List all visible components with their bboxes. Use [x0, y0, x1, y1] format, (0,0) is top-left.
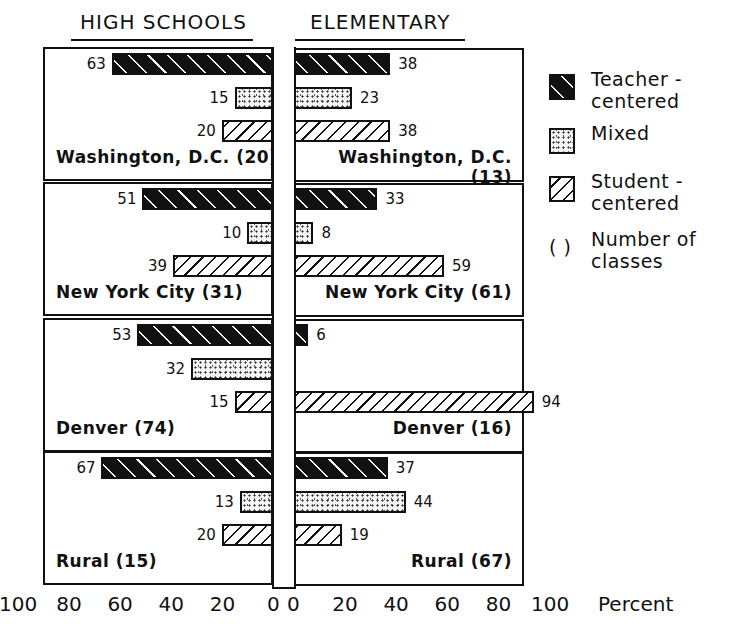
- value-label: 15: [205, 391, 229, 413]
- value-label: 44: [414, 491, 433, 513]
- tick-label: 0: [287, 592, 300, 616]
- tick-label: 0: [267, 592, 280, 616]
- tick-label: 40: [159, 592, 184, 616]
- value-label: 67: [71, 457, 95, 479]
- elem-location-label: Rural (67): [300, 551, 512, 571]
- tick-label: 80: [56, 592, 81, 616]
- value-label: 6: [316, 324, 326, 346]
- legend-symbol: ( ): [549, 236, 571, 258]
- elem-location-label: Washington, D.C. (13): [300, 147, 512, 187]
- bar-hs-teacher: [112, 53, 273, 75]
- bar-elem-student: [293, 255, 444, 277]
- bar-hs-student: [222, 120, 273, 142]
- tick-label: 20: [332, 592, 357, 616]
- value-label: 19: [350, 524, 369, 546]
- tick-label: 80: [486, 592, 511, 616]
- bar-hs-student: [173, 255, 273, 277]
- tick-label: 20: [210, 592, 235, 616]
- bar-elem-student: [293, 391, 534, 413]
- bar-elem-mixed: [293, 491, 406, 513]
- bar-elem-teacher: [293, 457, 388, 479]
- bar-hs-mixed: [191, 358, 273, 380]
- value-label: 8: [321, 222, 331, 244]
- high-schools-underline: [71, 39, 253, 41]
- bar-hs-teacher: [137, 324, 273, 346]
- value-label: 38: [398, 120, 417, 142]
- value-label: 23: [360, 87, 379, 109]
- bar-elem-teacher: [293, 188, 377, 210]
- value-label: 10: [217, 222, 241, 244]
- tick-label: 100: [531, 592, 569, 616]
- value-label: 59: [452, 255, 471, 277]
- bar-elem-mixed: [293, 222, 313, 244]
- value-label: 15: [205, 87, 229, 109]
- legend-label: Teacher -: [591, 68, 682, 90]
- elem-location-label: New York City (61): [300, 282, 512, 302]
- elem-location-label: Denver (16): [300, 418, 512, 438]
- bar-hs-teacher: [142, 188, 273, 210]
- value-label: 53: [107, 324, 131, 346]
- bar-elem-student: [293, 524, 342, 546]
- value-label: 20: [192, 120, 216, 142]
- value-label: 13: [210, 491, 234, 513]
- legend-label: Student -: [591, 170, 683, 192]
- tick-label: 100: [0, 592, 37, 616]
- legend-label: classes: [591, 250, 663, 272]
- bar-hs-mixed: [235, 87, 273, 109]
- value-label: 32: [161, 358, 185, 380]
- bar-hs-student: [235, 391, 273, 413]
- legend-label: Mixed: [591, 122, 650, 144]
- bar-elem-teacher: [293, 53, 390, 75]
- elementary-header: ELEMENTARY: [310, 10, 450, 34]
- bar-hs-mixed: [247, 222, 273, 244]
- hs-location-label: Rural (15): [56, 551, 157, 571]
- value-label: 63: [82, 53, 106, 75]
- tick-label: 60: [107, 592, 132, 616]
- value-label: 94: [542, 391, 561, 413]
- legend-swatch-mixed: [549, 128, 575, 154]
- legend-label: Number of: [591, 228, 696, 250]
- bar-hs-student: [222, 524, 273, 546]
- hs-location-label: Washington, D.C. (20): [56, 147, 277, 167]
- x-axis-title: Percent: [598, 592, 673, 616]
- value-label: 38: [398, 53, 417, 75]
- tick-label: 40: [383, 592, 408, 616]
- value-label: 20: [192, 524, 216, 546]
- bar-elem-mixed: [293, 87, 352, 109]
- legend-label: centered: [591, 90, 679, 112]
- hs-location-label: Denver (74): [56, 418, 175, 438]
- value-label: 37: [396, 457, 415, 479]
- hs-location-label: New York City (31): [56, 282, 243, 302]
- tick-label: 60: [435, 592, 460, 616]
- high-schools-header: HIGH SCHOOLS: [80, 10, 247, 34]
- value-label: 33: [385, 188, 404, 210]
- value-label: 39: [143, 255, 167, 277]
- elementary-underline: [295, 39, 465, 41]
- legend-label: centered: [591, 192, 679, 214]
- center-divider: [272, 47, 296, 589]
- legend-swatch-teacher: [549, 74, 575, 100]
- bar-hs-teacher: [101, 457, 273, 479]
- value-label: 51: [112, 188, 136, 210]
- legend-swatch-student: [549, 176, 575, 202]
- bar-elem-student: [293, 120, 390, 142]
- bar-hs-mixed: [240, 491, 273, 513]
